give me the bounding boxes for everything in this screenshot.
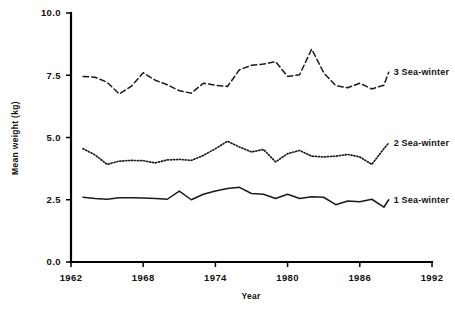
y-tick-label: 0.0	[47, 256, 61, 267]
x-tick-label: 1980	[276, 272, 299, 283]
line-chart: 0.02.55.07.510.0 19621968197419801986199…	[0, 0, 455, 310]
y-tick-label: 5.0	[47, 132, 61, 143]
series-label-2-sea-winter: 2 Sea-winter	[394, 138, 450, 148]
series-label-1-sea-winter: 1 Sea-winter	[394, 195, 450, 205]
x-tick-label: 1962	[60, 272, 83, 283]
y-tick-label: 2.5	[47, 194, 62, 205]
x-tick-label: 1986	[348, 272, 371, 283]
y-axis-ticks: 0.02.55.07.510.0	[41, 7, 71, 267]
series-label-3-sea-winter: 3 Sea-winter	[394, 67, 450, 77]
series-label-group: 1 Sea-winter2 Sea-winter3 Sea-winter	[394, 67, 450, 204]
chart-container: 0.02.55.07.510.0 19621968197419801986199…	[0, 0, 455, 310]
x-axis-ticks: 196219681974198019861992	[60, 262, 444, 283]
x-tick-label: 1974	[204, 272, 227, 283]
series-line-2-sea-winter	[83, 141, 389, 164]
series-line-1-sea-winter	[83, 187, 389, 207]
series-line-3-sea-winter	[83, 49, 389, 94]
y-tick-label: 7.5	[47, 70, 62, 81]
x-axis-title: Year	[241, 291, 261, 301]
x-tick-label: 1992	[421, 272, 444, 283]
x-tick-label: 1968	[132, 272, 155, 283]
y-tick-label: 10.0	[41, 7, 61, 18]
series-group	[83, 49, 389, 207]
y-axis-title: Mean weight (kg)	[10, 101, 20, 175]
